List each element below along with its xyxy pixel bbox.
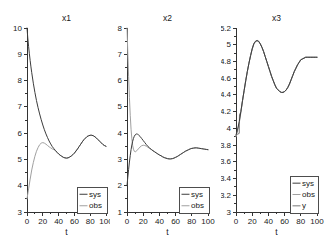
y-tick-label: 5 [118,102,123,111]
y-tick-label: 8 [18,76,23,85]
x-tick-label: 80 [296,217,305,226]
y-tick-label: 3.6 [221,157,232,166]
x-tick-label: 0 [234,217,239,226]
figure-canvas: 020406080100345678910x1tsysobs 020406080… [0,0,333,246]
x-tick-label: 0 [125,217,130,226]
series-sys-line [27,28,106,158]
x-tick-label: 60 [171,217,180,226]
x-tick-label: 20 [38,217,47,226]
legend-y-label: y [302,201,306,210]
legend-obs-label: obs [191,201,204,210]
y-tick-label: 6 [118,76,123,85]
x-tick-label: 100 [201,217,215,226]
chart-title: x3 [272,13,281,23]
x-tick-label: 60 [70,217,79,226]
x-tick-label: 20 [248,217,257,226]
x-tick-label: 100 [310,217,324,226]
x-tick-label: 40 [264,217,273,226]
y-tick-label: 6 [18,129,23,138]
x-tick-label: 40 [155,217,164,226]
series-obs-line [127,28,208,159]
y-tick-label: 7 [18,102,23,111]
legend-sys-label: sys [89,190,101,199]
subplot-x1: 020406080100345678910x1tsysobs [0,0,110,246]
y-tick-label: 2 [118,181,123,190]
y-tick-label: 3 [18,208,23,217]
y-tick-label: 3.8 [221,141,232,150]
series-sys-line [127,134,208,186]
y-tick-label: 8 [118,24,123,33]
series-sys-line [236,41,317,136]
y-tick-label: 4.4 [221,90,232,99]
y-tick-label: 4.8 [221,57,232,66]
y-tick-label: 7 [118,50,123,59]
y-tick-label: 4.6 [221,74,232,83]
legend-obs-label: obs [89,201,102,210]
y-tick-label: 4.2 [221,107,232,116]
y-tick-label: 4 [118,129,123,138]
x-axis-label: t [275,227,278,237]
subplot-x2: 02040608010012345678x2tsysobs [110,0,221,246]
y-tick-label: 3.4 [221,174,232,183]
chart-x3-svg: 02040608010033.23.43.63.844.24.44.64.855… [221,0,333,246]
y-tick-label: 5.2 [221,24,232,33]
y-tick-label: 3 [118,155,123,164]
x-tick-label: 80 [86,217,95,226]
x-tick-label: 40 [54,217,63,226]
y-tick-label: 1 [118,208,123,217]
y-tick-label: 4 [18,181,23,190]
y-tick-label: 3 [227,208,232,217]
x-tick-label: 20 [139,217,148,226]
legend-obs-label: obs [302,190,315,199]
chart-title: x2 [163,13,172,23]
legend-sys-label: sys [191,190,203,199]
x-tick-label: 100 [99,217,110,226]
x-axis-label: t [65,227,68,237]
y-tick-label: 5 [227,40,232,49]
chart-x1-svg: 020406080100345678910x1tsysobs [0,0,110,246]
y-tick-label: 10 [13,24,22,33]
chart-x2-svg: 02040608010012345678x2tsysobs [110,0,221,246]
x-tick-label: 60 [280,217,289,226]
legend-sys-label: sys [302,179,314,188]
x-axis-label: t [166,227,169,237]
subplot-x3: 02040608010033.23.43.63.844.24.44.64.855… [221,0,333,246]
chart-title: x1 [62,13,71,23]
y-tick-label: 4 [227,124,232,133]
y-tick-label: 5 [18,155,23,164]
y-tick-label: 9 [18,50,23,59]
x-tick-label: 80 [187,217,196,226]
x-tick-label: 0 [25,217,30,226]
y-tick-label: 3.2 [221,191,232,200]
